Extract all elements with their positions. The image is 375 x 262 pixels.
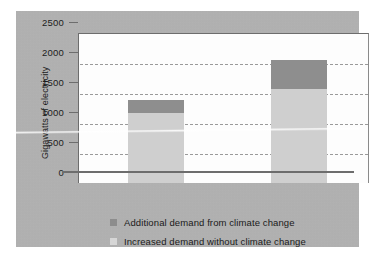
legend-item-increased-demand[interactable]: Increased demand without climate change [110, 236, 360, 247]
y-tick-label-0: 0 [20, 167, 64, 178]
y-axis-title: Gigawatts of electricity [40, 67, 50, 159]
legend-swatch-icon-increased-demand [110, 238, 117, 245]
y-tick-label-2500: 2500 [20, 17, 64, 28]
scanned-chart-image: 2500 2000 1500 1000 500 0 Gigawatts of e… [0, 0, 375, 262]
bar-series-2[interactable] [271, 60, 327, 183]
y-tick-mark-2000 [69, 52, 78, 53]
x-axis-baseline [62, 171, 354, 173]
legend: Additional demand from climate change In… [110, 217, 360, 255]
bar-1-segment-additional-demand [128, 100, 184, 113]
y-tick-mark-500 [69, 142, 78, 143]
y-tick-mark-1500 [69, 82, 78, 83]
bar-2-segment-increased-demand [271, 89, 327, 183]
y-tick-mark-1000 [69, 112, 78, 113]
bar-2-segment-additional-demand [271, 60, 327, 89]
y-tick-mark-2500 [69, 22, 78, 23]
legend-label-additional-demand: Additional demand from climate change [124, 217, 295, 228]
legend-label-increased-demand: Increased demand without climate change [124, 236, 306, 247]
legend-swatch-icon-additional-demand [110, 219, 117, 226]
legend-item-additional-demand[interactable]: Additional demand from climate change [110, 217, 360, 228]
y-tick-label-2000: 2000 [20, 47, 64, 58]
plot-area [78, 33, 369, 183]
chart-panel: 2500 2000 1500 1000 500 0 Gigawatts of e… [16, 11, 359, 247]
